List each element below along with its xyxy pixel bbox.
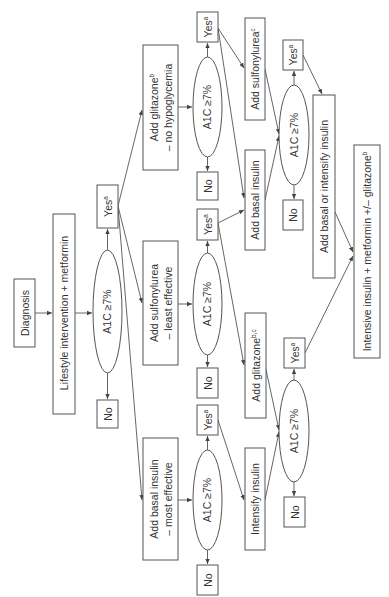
add-basal-insulin-box: Add basal insulin — [245, 150, 265, 250]
a1c-check-3a: A1C ≥7% — [279, 85, 309, 185]
no-box-3c: No — [284, 497, 305, 527]
basal-or-intensify-box: Add basal or intensify insulin — [313, 95, 335, 278]
add-glitazone-bc-box: Add glitazoneb,c — [245, 313, 266, 418]
svg-text:Add sulfonylurea: Add sulfonylurea — [148, 264, 160, 342]
a1c-check-2c: A1C ≥7% — [193, 450, 222, 550]
a1c-check-2b: A1C ≥7% — [193, 253, 222, 355]
yes-box-1: Yesa — [97, 185, 118, 228]
no-box-1: No — [97, 400, 118, 428]
svg-text:Intensify insulin: Intensify insulin — [249, 463, 261, 535]
svg-text:No: No — [287, 208, 299, 222]
intensive-insulin-box: Intensive insulin + metformin +/– glitaz… — [354, 145, 380, 358]
treatment-flowchart: Diagnosis Lifestyle intervention + metfo… — [0, 0, 389, 597]
yes-box-2b: Yesa — [197, 209, 218, 240]
yes-box-2a: Yesa — [197, 12, 218, 42]
yes-box-3a: Yesa — [283, 40, 303, 70]
svg-text:A1C ≥7%: A1C ≥7% — [288, 113, 300, 157]
svg-text:No: No — [102, 407, 114, 421]
svg-text:Add glitazoneb,c: Add glitazoneb,c — [250, 329, 262, 402]
svg-text:No: No — [202, 573, 214, 587]
add-sulfonylurea-option: Add sulfonylurea – least effective — [143, 241, 178, 365]
no-box-2a: No — [197, 172, 218, 200]
no-box-2c: No — [197, 565, 218, 595]
svg-text:– least effective: – least effective — [162, 266, 174, 339]
svg-text:Lifestyle intervention + metfo: Lifestyle intervention + metformin — [58, 236, 70, 391]
intensify-insulin-box: Intensify insulin — [245, 448, 265, 550]
svg-text:No: No — [289, 505, 301, 519]
svg-text:Add basal or intensify insulin: Add basal or intensify insulin — [318, 120, 330, 253]
add-sulfonylurea-box: Add sulfonylureac — [245, 18, 265, 120]
svg-text:No: No — [202, 179, 214, 193]
svg-text:A1C ≥7%: A1C ≥7% — [201, 85, 213, 129]
svg-text:Add basal insulin: Add basal insulin — [148, 459, 160, 539]
svg-text:A1C ≥7%: A1C ≥7% — [201, 282, 213, 326]
add-glitazone-option: Add glitazoneb – no hypoglycemia — [143, 45, 178, 170]
svg-text:No: No — [202, 376, 214, 390]
svg-text:A1C ≥7%: A1C ≥7% — [288, 409, 300, 453]
svg-text:Add glitazoneb: Add glitazoneb — [148, 73, 160, 141]
diagnosis-box: Diagnosis — [14, 279, 35, 347]
svg-text:– most effective: – most effective — [162, 462, 174, 536]
svg-text:Add basal insulin: Add basal insulin — [249, 160, 261, 240]
lifestyle-metformin-box: Lifestyle intervention + metformin — [53, 214, 75, 414]
add-basal-insulin-option: Add basal insulin – most effective — [143, 438, 178, 560]
yes-box-3c: Yesa — [284, 338, 305, 368]
no-box-2b: No — [197, 368, 218, 398]
svg-text:– no hypoglycemia: – no hypoglycemia — [162, 64, 174, 152]
svg-text:Diagnosis: Diagnosis — [19, 290, 31, 336]
svg-text:A1C ≥7%: A1C ≥7% — [101, 289, 113, 333]
svg-text:Add sulfonylureac: Add sulfonylureac — [249, 28, 261, 110]
no-box-3a: No — [283, 200, 303, 230]
yes-box-2c: Yesa — [197, 405, 218, 435]
svg-text:Intensive insulin + metformin: Intensive insulin + metformin +/– glitaz… — [361, 151, 373, 351]
svg-text:A1C ≥7%: A1C ≥7% — [201, 478, 213, 522]
a1c-check-2a: A1C ≥7% — [193, 57, 222, 157]
a1c-check-1: A1C ≥7% — [93, 250, 122, 373]
a1c-check-3c: A1C ≥7% — [279, 380, 309, 482]
